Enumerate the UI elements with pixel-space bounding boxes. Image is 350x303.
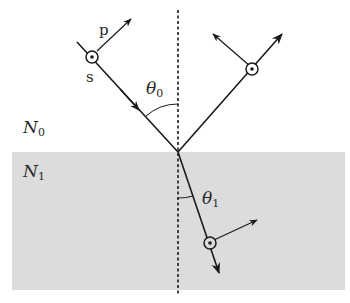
theta0-angle-arc bbox=[146, 104, 178, 116]
reflected-p-vector bbox=[213, 34, 250, 66]
reflected-ray bbox=[178, 34, 282, 152]
optics-diagram: p s θ0 θ1 N0 N1 bbox=[0, 0, 350, 303]
theta0-label: θ0 bbox=[146, 78, 163, 100]
transmitted-s-polarization-icon bbox=[204, 237, 216, 249]
n0-label: N0 bbox=[22, 117, 45, 139]
reflected-s-polarization-icon bbox=[246, 63, 258, 75]
p-label: p bbox=[99, 21, 109, 39]
incident-ray-arrow bbox=[120, 89, 139, 110]
s-label: s bbox=[86, 68, 94, 86]
incident-s-polarization-icon bbox=[86, 51, 98, 63]
